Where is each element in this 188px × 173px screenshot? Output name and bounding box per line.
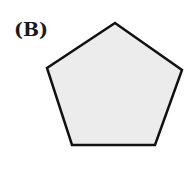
pentagon-diagram <box>0 0 188 173</box>
pentagon-shape <box>47 23 182 145</box>
